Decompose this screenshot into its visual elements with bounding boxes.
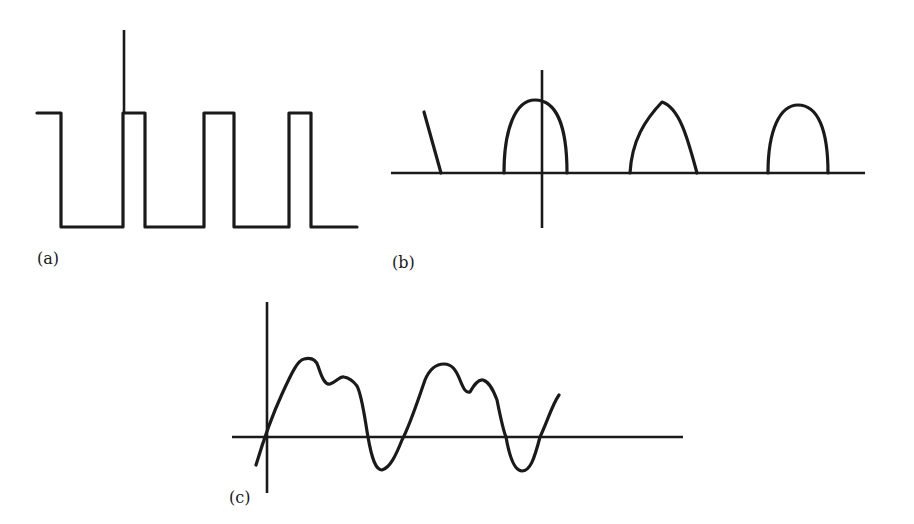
panel-c-distorted-wave bbox=[256, 358, 559, 471]
panel-a-waveform bbox=[37, 30, 357, 227]
panel-c-label: (c) bbox=[229, 488, 250, 507]
panel-b-waveform bbox=[391, 70, 865, 228]
panel-a-pulse-train bbox=[37, 113, 357, 227]
panel-c-waveform bbox=[232, 302, 683, 493]
panel-b-arch-2 bbox=[630, 102, 697, 173]
panel-a-label: (a) bbox=[37, 249, 59, 268]
panel-b-partial-pulse bbox=[424, 112, 441, 173]
panel-b-arch-3 bbox=[768, 105, 828, 173]
panel-b-label: (b) bbox=[392, 253, 415, 272]
panel-b-arch-1 bbox=[504, 100, 567, 173]
waveform-drawing bbox=[0, 0, 914, 524]
waveform-figure: (a) (b) (c) bbox=[0, 0, 914, 524]
